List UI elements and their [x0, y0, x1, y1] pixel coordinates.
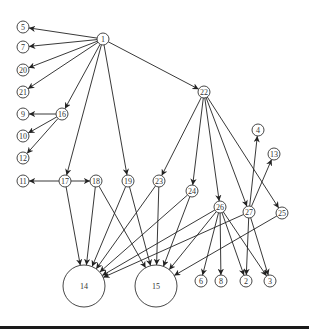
node-label: 22	[200, 88, 208, 97]
node-label: 9	[21, 110, 25, 119]
edge-24-to-15	[163, 197, 190, 267]
node-label: 25	[278, 209, 286, 218]
edge-1-to-21	[28, 42, 98, 88]
node-16: 16	[56, 108, 68, 120]
node-label: 10	[19, 132, 27, 141]
node-3: 3	[264, 275, 276, 287]
edge-16-to-12	[27, 119, 58, 154]
edge-26-to-8	[220, 213, 221, 275]
node-label: 4	[256, 126, 260, 135]
node-label: 12	[19, 154, 27, 163]
node-26: 26	[214, 201, 226, 213]
node-label: 18	[92, 177, 100, 186]
node-layer: 1572021169101211171819222324262725413141…	[17, 21, 288, 307]
node-label: 19	[124, 177, 132, 186]
node-21: 21	[17, 86, 29, 98]
node-label: 5	[21, 23, 25, 32]
node-24: 24	[186, 185, 198, 197]
node-label: 8	[219, 277, 223, 286]
edge-1-to-5	[29, 28, 97, 38]
edge-layer	[27, 28, 279, 278]
edge-23-to-14	[96, 186, 155, 269]
node-11: 11	[17, 175, 29, 187]
node-10: 10	[17, 130, 29, 142]
node-17: 17	[59, 175, 71, 187]
node-18: 18	[90, 175, 102, 187]
node-8: 8	[215, 275, 227, 287]
node-15: 15	[135, 265, 177, 307]
node-label: 24	[188, 187, 196, 196]
node-14: 14	[63, 265, 105, 307]
bottom-rule	[0, 326, 309, 329]
directed-graph: 1572021169101211171819222324262725413141…	[0, 0, 309, 332]
edge-19-to-14	[92, 187, 126, 267]
node-22: 22	[198, 86, 210, 98]
node-label: 1	[101, 35, 105, 44]
node-label: 27	[245, 208, 253, 217]
node-9: 9	[17, 108, 29, 120]
node-label: 17	[61, 177, 69, 186]
node-label: 6	[199, 277, 203, 286]
node-6: 6	[195, 275, 207, 287]
node-4: 4	[252, 124, 264, 136]
edge-1-to-17	[67, 45, 102, 175]
node-19: 19	[122, 175, 134, 187]
node-27: 27	[243, 206, 255, 218]
node-label: 7	[21, 43, 25, 52]
node-label: 20	[19, 66, 27, 75]
node-label: 11	[19, 177, 27, 186]
node-7: 7	[17, 41, 29, 53]
edge-26-to-6	[203, 213, 219, 275]
node-label: 3	[268, 277, 272, 286]
edge-26-to-3	[223, 212, 266, 276]
node-label: 15	[152, 282, 160, 291]
node-label: 13	[270, 150, 278, 159]
edge-26-to-2	[222, 213, 244, 276]
edge-18-to-14	[86, 187, 95, 265]
node-5: 5	[17, 21, 29, 33]
node-label: 2	[244, 277, 248, 286]
node-12: 12	[17, 152, 29, 164]
node-1: 1	[97, 33, 109, 45]
edge-1-to-16	[65, 44, 100, 108]
node-13: 13	[268, 148, 280, 160]
node-23: 23	[153, 175, 165, 187]
edge-17-to-14	[66, 187, 80, 265]
node-25: 25	[276, 207, 288, 219]
node-label: 14	[80, 282, 88, 291]
edge-26-to-15	[169, 212, 216, 270]
node-label: 23	[155, 177, 163, 186]
node-label: 21	[19, 88, 27, 97]
edge-27-to-14	[103, 215, 243, 278]
edge-1-to-19	[104, 45, 127, 175]
node-label: 26	[216, 203, 224, 212]
node-20: 20	[17, 64, 29, 76]
edge-1-to-22	[108, 42, 198, 89]
node-label: 16	[58, 110, 66, 119]
node-2: 2	[240, 275, 252, 287]
